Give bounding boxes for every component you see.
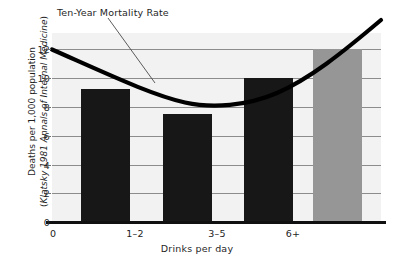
- bar-6plus[interactable]: [313, 49, 362, 222]
- x-axis-title: Drinks per day: [0, 243, 394, 254]
- y-axis-title: Deaths per 1,000 population (Klatsky 198…: [27, 12, 50, 212]
- y-axis-title-line2: (Klatsky 1981 Annals of Internal Medicin…: [38, 12, 50, 212]
- x-tick-label-3-5: 3–5: [187, 228, 247, 239]
- bar-0[interactable]: [81, 89, 130, 222]
- x-axis-line: [46, 221, 386, 224]
- y-axis-title-citation: Klatsky 1981 Annals of Internal Medicine: [38, 20, 48, 204]
- x-tick-label-0: 0: [23, 228, 83, 239]
- y-axis-title-line1: Deaths per 1,000 population: [27, 12, 39, 212]
- y-axis-title-paren-open: (: [38, 203, 48, 207]
- y-tick-label-0: 0: [36, 217, 50, 228]
- bar-3-5[interactable]: [244, 78, 293, 222]
- y-axis-title-paren-close: ): [38, 16, 48, 20]
- plot-area: [52, 33, 381, 222]
- curve-annotation-label: Ten-Year Mortality Rate: [57, 7, 169, 18]
- bar-1-2[interactable]: [163, 114, 212, 222]
- x-tick-label-6plus: 6+: [263, 228, 323, 239]
- mortality-vs-drinks-chart: 12 10 8 6 4 2 0 Deaths per 1,000 populat…: [0, 0, 394, 262]
- x-tick-label-1-2: 1–2: [105, 228, 165, 239]
